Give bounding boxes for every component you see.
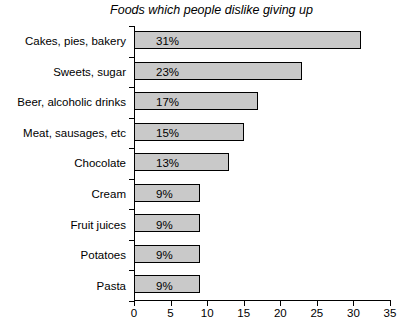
bar-value-label: 13%: [156, 157, 179, 169]
category-label: Beer, alcoholic drinks: [17, 96, 126, 108]
y-axis-tick: [129, 57, 135, 58]
y-axis-tick: [129, 118, 135, 119]
category-label: Fruit juices: [70, 219, 126, 231]
category-label: Sweets, sugar: [53, 66, 126, 78]
bar: [134, 92, 258, 110]
category-label: Pasta: [97, 280, 126, 292]
bar-row: Chocolate13%: [134, 148, 390, 179]
x-axis-tick: [317, 301, 318, 306]
plot-area: Cakes, pies, bakery31%Sweets, sugar23%Be…: [134, 26, 390, 301]
bar-row: Cream9%: [134, 179, 390, 210]
bar-value-label: 23%: [156, 66, 179, 78]
bar-row: Fruit juices9%: [134, 209, 390, 240]
y-axis-tick: [129, 179, 135, 180]
x-axis-tick-label: 15: [237, 307, 250, 319]
x-axis-tick: [207, 301, 208, 306]
x-axis-tick: [244, 301, 245, 306]
bar-value-label: 31%: [156, 35, 179, 47]
x-axis-tick: [390, 301, 391, 306]
y-axis-tick: [129, 26, 135, 27]
bar-row: Potatoes9%: [134, 240, 390, 271]
bar: [134, 153, 229, 171]
category-label: Cakes, pies, bakery: [25, 35, 126, 47]
category-label: Chocolate: [74, 157, 126, 169]
bar-row: Beer, alcoholic drinks17%: [134, 87, 390, 118]
y-axis-tick: [129, 209, 135, 210]
bar-value-label: 9%: [156, 249, 173, 261]
x-axis-tick-label: 0: [131, 307, 137, 319]
bar-value-label: 9%: [156, 219, 173, 231]
x-axis-tick-label: 20: [274, 307, 287, 319]
bar-chart: Foods which people dislike giving up Cak…: [0, 0, 405, 333]
x-axis-tick: [353, 301, 354, 306]
bar-value-label: 9%: [156, 188, 173, 200]
bar-row: Cakes, pies, bakery31%: [134, 26, 390, 57]
bar-value-label: 9%: [156, 280, 173, 292]
y-axis-tick: [129, 270, 135, 271]
bar-value-label: 15%: [156, 127, 179, 139]
x-axis-tick-label: 5: [167, 307, 173, 319]
bar-row: Meat, sausages, etc15%: [134, 118, 390, 149]
y-axis-tick: [129, 148, 135, 149]
bar-value-label: 17%: [156, 96, 179, 108]
bar: [134, 123, 244, 141]
category-label: Cream: [91, 188, 126, 200]
bar-row: Sweets, sugar23%: [134, 57, 390, 88]
x-axis-tick-label: 25: [310, 307, 323, 319]
y-axis-tick: [129, 87, 135, 88]
category-label: Potatoes: [81, 249, 126, 261]
x-axis-tick: [280, 301, 281, 306]
x-axis-tick: [171, 301, 172, 306]
chart-title: Foods which people dislike giving up: [0, 3, 405, 17]
bar-row: Pasta9%: [134, 270, 390, 301]
x-axis-tick-label: 35: [384, 307, 397, 319]
category-label: Meat, sausages, etc: [23, 127, 126, 139]
x-axis-tick-label: 10: [201, 307, 214, 319]
x-axis-tick: [134, 301, 135, 306]
y-axis-tick: [129, 240, 135, 241]
x-axis-tick-label: 30: [347, 307, 360, 319]
